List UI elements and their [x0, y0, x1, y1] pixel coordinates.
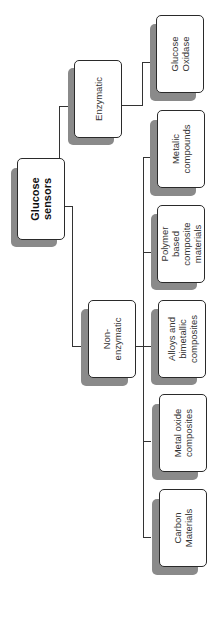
node-label: Metal oxide composites [172, 409, 194, 458]
node-label: Non- enzymatic [101, 318, 123, 361]
connector-to-carbon [143, 537, 151, 538]
connector-root-enzymatic [59, 106, 60, 160]
connector-nonenzymatic-trunk [143, 157, 144, 538]
connector-root-nonenzymatic [72, 206, 73, 347]
node-label: Enzymatic [93, 77, 104, 121]
connector-enzymatic-oxidase [142, 62, 143, 106]
connector-to-alloys [143, 346, 151, 347]
node-label: Metalic compounds [170, 124, 192, 173]
node-label: Glucose Oxidase [169, 37, 191, 72]
connector-to-polymer [143, 252, 151, 253]
node-label: Carbon Materials [172, 509, 194, 548]
node-label: Polymer based composite materials [159, 222, 203, 265]
connector-to-metal-oxide [143, 441, 151, 442]
node-label: Alloys and bimetallic composites [166, 315, 199, 363]
connector-enzymatic-oxidase [122, 105, 143, 106]
node-label: Glucose sensors [29, 177, 53, 220]
